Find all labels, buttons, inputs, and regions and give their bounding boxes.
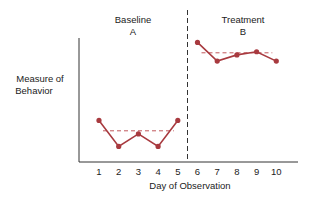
baseline-letter: A	[108, 26, 158, 38]
data-point	[234, 52, 239, 57]
phase-line	[198, 42, 277, 61]
data-point	[195, 40, 200, 45]
x-axis-label: Day of Observation	[138, 180, 242, 192]
treatment-letter: B	[213, 26, 273, 38]
x-tick-label: 4	[148, 166, 168, 178]
x-tick-label: 2	[109, 166, 129, 178]
x-tick-label: 9	[247, 166, 267, 178]
x-tick-label: 5	[168, 166, 188, 178]
x-tick-label: 1	[89, 166, 109, 178]
x-tick-label: 10	[266, 166, 286, 178]
data-point	[215, 59, 220, 64]
data-point	[156, 144, 161, 149]
x-tick-label: 3	[128, 166, 148, 178]
treatment-title: Treatment	[213, 14, 273, 26]
data-point	[274, 59, 279, 64]
data-point	[175, 118, 180, 123]
y-axis-label-line1: Measure of	[10, 73, 70, 85]
data-point	[116, 144, 121, 149]
data-point	[96, 118, 101, 123]
baseline-title: Baseline	[108, 14, 158, 26]
y-axis-label-line2: Behavior	[4, 85, 64, 97]
x-tick-label: 7	[207, 166, 227, 178]
data-point	[254, 49, 259, 54]
x-tick-label: 6	[188, 166, 208, 178]
x-tick-label: 8	[227, 166, 247, 178]
data-point	[136, 131, 141, 136]
